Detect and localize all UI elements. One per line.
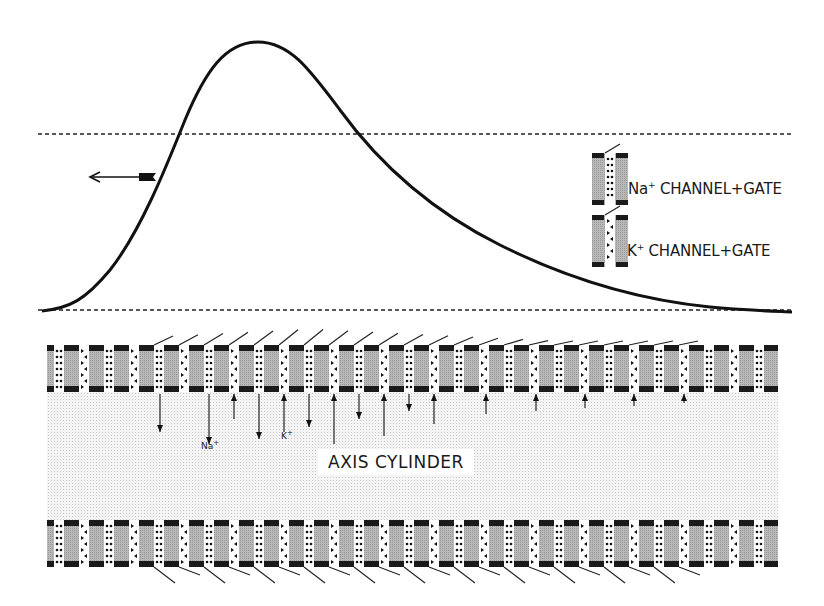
lower-membrane [47,520,778,583]
action-potential-curve [42,42,792,312]
diagram-canvas [0,0,824,606]
propagation-arrow-icon [90,172,156,182]
na-channel-legend-label: Na+ CHANNEL+GATE [628,180,782,198]
na-channel-legend-icon [592,144,628,205]
upper-membrane [47,329,778,392]
na-flux-label: Na+ [201,439,219,451]
diagram-stage: Na+ CHANNEL+GATE K+ CHANNEL+GATE Na+ K+ … [0,0,824,606]
k-channel-legend-label: K+ CHANNEL+GATE [627,242,770,260]
k-ion-text: K [627,242,637,260]
na-charge: + [648,180,655,190]
k-flux-label: K+ [281,429,293,441]
k-channel-legend-icon [592,206,628,267]
k-legend-text: CHANNEL+GATE [649,242,771,260]
k-charge: + [637,242,644,252]
axis-cylinder-label: AXIS CYLINDER [318,449,474,475]
na-ion-text: Na [628,180,648,198]
na-legend-text: CHANNEL+GATE [660,180,782,198]
